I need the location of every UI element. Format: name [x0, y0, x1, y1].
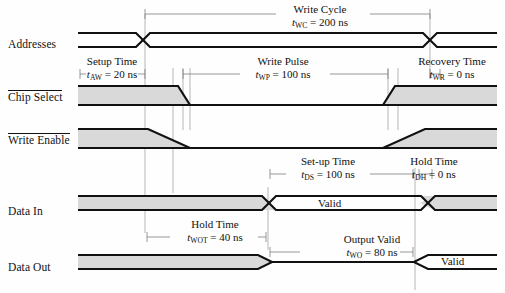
annotation-hold-time-wot-subscript: WOT	[190, 236, 207, 245]
data-out-fill-left	[78, 255, 272, 269]
annotation-output-valid: Output Valid tWO = 80 ns	[328, 233, 416, 260]
annotation-hold-time-wot: Hold Time tWOT = 40 ns	[173, 218, 257, 245]
annotation-write-pulse-name: Write Pulse	[244, 55, 322, 68]
annotation-setup-time-ds: Set-up Time tDS = 100 ns	[288, 155, 368, 182]
signal-label-chip-select: Chip Select	[8, 90, 62, 104]
annotation-setup-time-ds-equation: = 100 ns	[317, 168, 355, 180]
annotation-output-valid-name: Output Valid	[328, 233, 416, 246]
annotation-write-pulse-subscript: WP	[258, 73, 269, 82]
waveform-data-out	[78, 255, 497, 269]
waveform-write-enable	[78, 129, 497, 148]
signal-label-data-in: Data In	[8, 205, 43, 217]
annotation-recovery-time: Recovery Time tWR = 0 ns	[404, 55, 500, 82]
annotation-setup-time-aw-name: Setup Time	[78, 55, 146, 68]
wave-label-data-out-valid: Valid	[441, 255, 464, 267]
annotation-write-pulse-expr: tWP = 100 ns	[244, 68, 322, 83]
annotation-write-cycle-name: Write Cycle	[278, 3, 362, 16]
annotation-write-pulse-equation: = 100 ns	[273, 68, 311, 80]
timing-diagram-canvas	[0, 0, 505, 293]
annotation-recovery-time-subscript: WR	[433, 73, 445, 82]
timing-diagram-figure: Addresses Chip Select Write Enable Data …	[0, 0, 505, 293]
annotation-setup-time-ds-expr: tDS = 100 ns	[288, 168, 368, 183]
write-enable-fill	[78, 129, 497, 148]
chip-select-fill	[78, 86, 497, 105]
annotation-write-cycle-equation: = 200 ns	[310, 16, 348, 28]
annotation-write-cycle-subscript: WC	[295, 21, 307, 30]
annotation-write-cycle-expr: tWC = 200 ns	[278, 16, 362, 31]
waveform-chip-select	[78, 86, 497, 105]
annotation-output-valid-subscript: WO	[350, 251, 363, 260]
signal-label-data-out: Data Out	[8, 261, 51, 273]
annotation-recovery-time-expr: tWR = 0 ns	[404, 68, 500, 83]
annotation-output-valid-equation: = 80 ns	[365, 246, 397, 258]
annotation-hold-time-wot-equation: = 40 ns	[210, 231, 242, 243]
data-in-fill-left	[78, 196, 276, 210]
waveform-addresses	[78, 33, 497, 47]
signal-label-addresses: Addresses	[8, 38, 56, 50]
annotation-hold-time-wot-expr: tWOT = 40 ns	[173, 231, 257, 246]
waveform-data-in	[78, 196, 497, 210]
annotation-setup-time-ds-subscript: DS	[304, 173, 314, 182]
wave-label-data-in-valid: Valid	[318, 197, 341, 209]
annotation-write-cycle: Write Cycle tWC = 200 ns	[278, 3, 362, 30]
annotation-output-valid-expr: tWO = 80 ns	[328, 246, 416, 261]
annotation-setup-time-aw: Setup Time tAW = 20 ns	[78, 55, 146, 82]
annotation-hold-time-wot-name: Hold Time	[173, 218, 257, 231]
signal-label-write-enable: Write Enable	[8, 133, 70, 147]
annotation-setup-time-aw-subscript: AW	[90, 73, 102, 82]
annotation-hold-time-dh-expr: tDH = 0 ns	[396, 168, 472, 183]
annotation-setup-time-ds-name: Set-up Time	[288, 155, 368, 168]
annotation-hold-time-dh-equation: = 0 ns	[429, 168, 456, 180]
annotation-setup-time-aw-equation: = 20 ns	[105, 68, 137, 80]
annotation-hold-time-dh-subscript: DH	[415, 173, 426, 182]
annotation-recovery-time-equation: = 0 ns	[448, 68, 475, 80]
annotation-hold-time-dh: Hold Time tDH = 0 ns	[396, 155, 472, 182]
annotation-setup-time-aw-expr: tAW = 20 ns	[78, 68, 146, 83]
annotation-recovery-time-name: Recovery Time	[404, 55, 500, 68]
annotation-hold-time-dh-name: Hold Time	[396, 155, 472, 168]
annotation-write-pulse: Write Pulse tWP = 100 ns	[244, 55, 322, 82]
